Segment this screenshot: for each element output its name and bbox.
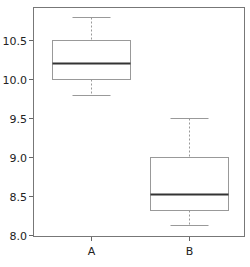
y-tick-label: 9.5 xyxy=(10,113,28,126)
iqr-box xyxy=(53,41,131,80)
box-plot: 8.08.59.09.510.010.5 AB xyxy=(0,0,250,267)
y-tick-label: 9.0 xyxy=(10,152,28,165)
y-axis: 8.08.59.09.510.010.5 xyxy=(3,35,34,243)
y-tick-label: 8.5 xyxy=(10,191,28,204)
y-tick-label: 10.0 xyxy=(3,74,28,87)
x-tick-label: A xyxy=(88,245,96,258)
y-tick-label: 8.0 xyxy=(10,230,28,243)
boxes xyxy=(53,18,229,226)
box-B xyxy=(151,119,229,226)
iqr-box xyxy=(151,158,229,211)
x-tick-label: B xyxy=(186,245,194,258)
y-tick-label: 10.5 xyxy=(3,35,28,48)
box-A xyxy=(53,18,131,96)
x-axis: AB xyxy=(88,237,194,258)
